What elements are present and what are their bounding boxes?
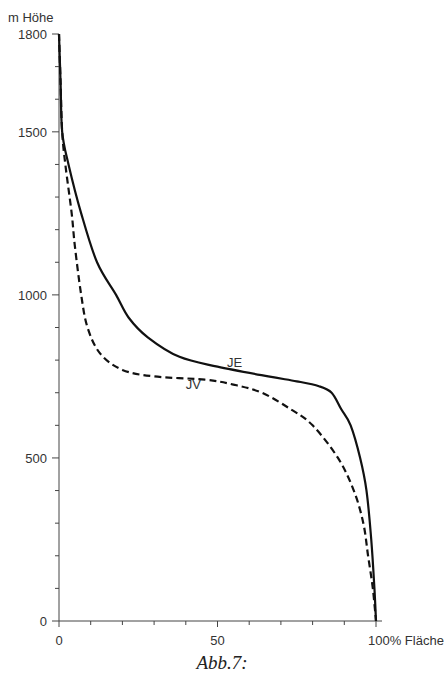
- y-tick-label: 0: [40, 614, 47, 629]
- labels: 0500100015001800m Höhe050100% FlächeJEJV: [8, 10, 444, 648]
- axes: [52, 34, 382, 627]
- series-label-je: JE: [227, 355, 243, 370]
- curve-jv: [59, 34, 376, 621]
- x-tick-label: 0: [55, 633, 62, 648]
- series-label-jv: JV: [186, 377, 202, 392]
- y-tick-label: 500: [25, 451, 47, 466]
- y-tick-label: 1500: [18, 125, 47, 140]
- y-tick-label: 1800: [18, 27, 47, 42]
- x-tick-label: 50: [210, 633, 224, 648]
- x-tick-label: 100% Fläche: [368, 633, 444, 648]
- curves: [59, 34, 376, 621]
- curve-je: [59, 34, 376, 621]
- hypsometric-chart: 0500100015001800m Höhe050100% FlächeJEJV: [0, 0, 444, 690]
- figure-caption: Abb.7:: [0, 652, 444, 674]
- y-tick-label: 1000: [18, 288, 47, 303]
- y-axis-label: m Höhe: [8, 10, 54, 25]
